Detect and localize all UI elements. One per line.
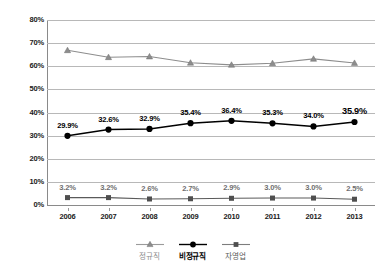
x-axis-tickmark bbox=[191, 208, 192, 211]
x-axis-labels: 20062007200820092010201120122013 bbox=[47, 208, 375, 222]
y-axis-tick-label: 40% bbox=[4, 108, 44, 117]
chart-legend: 정규직 비정규직 자영업 bbox=[0, 240, 385, 261]
data-label: 2.6% bbox=[141, 184, 157, 193]
x-axis-tick-label: 2010 bbox=[224, 212, 240, 221]
data-point-marker bbox=[270, 196, 275, 201]
data-label: 32.9% bbox=[139, 114, 159, 123]
legend-item-regular[interactable]: 정규직 bbox=[135, 240, 165, 261]
data-point-marker bbox=[229, 196, 234, 201]
series-1 bbox=[64, 47, 357, 67]
x-axis-tickmark bbox=[68, 208, 69, 211]
data-point-marker bbox=[311, 196, 316, 201]
data-point-marker bbox=[106, 195, 111, 200]
data-point-marker bbox=[65, 195, 70, 200]
y-axis-tick-label: 50% bbox=[4, 84, 44, 93]
y-axis-labels: 0%10%20%30%40%50%60%70%80% bbox=[0, 20, 44, 205]
x-axis-tick-label: 2008 bbox=[142, 212, 158, 221]
legend-label-nonregular: 비정규직 bbox=[179, 250, 206, 261]
y-axis-tick-label: 80% bbox=[4, 15, 44, 24]
x-axis-tick-label: 2009 bbox=[183, 212, 199, 221]
data-point-marker bbox=[64, 47, 70, 53]
data-point-marker bbox=[147, 196, 152, 201]
data-label: 32.6% bbox=[98, 115, 118, 124]
data-point-marker bbox=[269, 120, 275, 126]
data-label: 2.5% bbox=[346, 184, 362, 193]
chart-container: 0%10%20%30%40%50%60%70%80% 29.9%32.6%32.… bbox=[0, 0, 385, 272]
x-axis-tickmark bbox=[314, 208, 315, 211]
x-axis-tick-label: 2007 bbox=[101, 212, 117, 221]
data-point-marker bbox=[146, 126, 152, 132]
series-3 bbox=[65, 195, 357, 202]
legend-key-square-icon bbox=[221, 240, 251, 249]
legend-item-nonregular[interactable]: 비정규직 bbox=[178, 240, 208, 261]
data-point-marker bbox=[351, 119, 357, 125]
y-axis-tick-label: 70% bbox=[4, 38, 44, 47]
x-axis-tick-label: 2006 bbox=[60, 212, 76, 221]
x-axis-tickmark bbox=[273, 208, 274, 211]
data-point-marker bbox=[64, 133, 70, 139]
x-axis-tickmark bbox=[109, 208, 110, 211]
legend-key-circle-icon bbox=[178, 240, 208, 249]
data-label: 3.2% bbox=[59, 183, 75, 192]
legend-item-selfemployed[interactable]: 자영업 bbox=[221, 240, 251, 261]
data-label: 3.2% bbox=[100, 183, 116, 192]
legend-label-regular: 정규직 bbox=[139, 250, 159, 261]
x-axis-tickmark bbox=[150, 208, 151, 211]
data-point-marker bbox=[188, 196, 193, 201]
data-label: 35.4% bbox=[180, 108, 200, 117]
data-point-marker bbox=[310, 56, 316, 62]
legend-label-selfemployed: 자영업 bbox=[225, 250, 245, 261]
data-label: 35.3% bbox=[262, 108, 282, 117]
data-point-marker bbox=[228, 118, 234, 124]
y-axis-tick-label: 60% bbox=[4, 61, 44, 70]
data-label: 34.0% bbox=[303, 111, 323, 120]
data-label: 3.0% bbox=[264, 183, 280, 192]
x-axis-tick-label: 2012 bbox=[306, 212, 322, 221]
data-label: 2.9% bbox=[223, 183, 239, 192]
data-label: 3.0% bbox=[305, 183, 321, 192]
data-label: 2.7% bbox=[182, 184, 198, 193]
data-label: 29.9% bbox=[57, 121, 77, 130]
y-axis-tick-label: 20% bbox=[4, 154, 44, 163]
data-point-marker bbox=[352, 197, 357, 202]
data-point-marker bbox=[187, 120, 193, 126]
gridline bbox=[47, 205, 375, 206]
x-axis-tick-label: 2013 bbox=[347, 212, 363, 221]
series-layer bbox=[47, 20, 375, 205]
y-axis-tick-label: 0% bbox=[4, 200, 44, 209]
data-label: 35.9% bbox=[342, 106, 367, 116]
data-label: 36.4% bbox=[221, 106, 241, 115]
plot-area: 29.9%32.6%32.9%35.4%36.4%35.3%34.0%35.9%… bbox=[47, 20, 375, 205]
x-axis-tick-label: 2011 bbox=[265, 212, 280, 221]
y-axis-tick-label: 10% bbox=[4, 177, 44, 186]
x-axis-tickmark bbox=[355, 208, 356, 211]
y-axis-tick-label: 30% bbox=[4, 131, 44, 140]
legend-key-triangle-icon bbox=[135, 240, 165, 249]
data-point-marker bbox=[310, 123, 316, 129]
x-axis-tickmark bbox=[232, 208, 233, 211]
data-point-marker bbox=[105, 127, 111, 133]
